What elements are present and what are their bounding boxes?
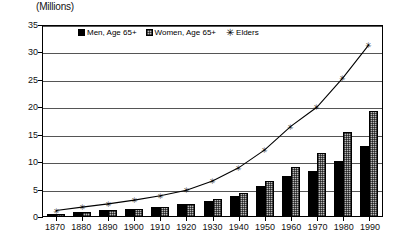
bar-group (304, 26, 330, 217)
x-axis-tick-mark (160, 217, 161, 221)
bar-group (173, 26, 199, 217)
bar-men (308, 171, 317, 217)
y-axis-tick-label: 30 (16, 47, 38, 57)
y-axis-tick-labels: 05101520253035 (12, 25, 38, 217)
bar-group (69, 26, 95, 217)
y-axis-tick-label: 25 (16, 75, 38, 85)
y-axis-tick-mark (38, 217, 43, 218)
legend-item: ✳Elders (225, 28, 259, 37)
y-axis-tick-label: 35 (16, 20, 38, 30)
x-axis-tick-mark (291, 217, 292, 221)
y-axis-tick-label: 20 (16, 102, 38, 112)
bar-men (204, 201, 213, 217)
x-axis-tick-mark (213, 217, 214, 221)
bar-men (282, 176, 291, 217)
bar-women (213, 199, 222, 217)
x-axis-tick-mark (134, 217, 135, 221)
bar-group (226, 26, 252, 217)
bar-group (95, 26, 121, 217)
x-axis-tick-label: 1990 (357, 222, 383, 232)
bar-men (334, 161, 343, 218)
bar-men (256, 186, 265, 217)
bar-group (121, 26, 147, 217)
x-axis-tick-mark (343, 217, 344, 221)
bar-groups (43, 26, 382, 217)
x-axis-tick-label: 1920 (173, 222, 199, 232)
bar-women (265, 181, 274, 217)
x-axis-tick-mark (265, 217, 266, 221)
bar-men (360, 146, 369, 217)
x-axis-tick-mark (82, 217, 83, 221)
y-axis-tick-label: 15 (16, 130, 38, 140)
x-axis-tick-mark (56, 217, 57, 221)
x-axis-tick-label: 1970 (304, 222, 330, 232)
bar-group (356, 26, 382, 217)
bar-women (291, 167, 300, 217)
legend-item-label: Elders (236, 28, 259, 37)
x-axis-tick-mark (369, 217, 370, 221)
bar-group (330, 26, 356, 217)
plot-inner: ✳✳✳✳✳✳✳✳✳✳✳✳✳ (43, 26, 382, 217)
legend-item-label: Men, Age 65+ (87, 28, 137, 37)
y-axis-tick-label: 0 (16, 212, 38, 222)
solid-black-square-icon (78, 29, 85, 36)
x-axis-tick-label: 1930 (199, 222, 225, 232)
y-axis-title: (Millions) (36, 1, 74, 12)
x-axis-tick-label: 1880 (68, 222, 94, 232)
x-axis-tick-label: 1940 (226, 222, 252, 232)
y-axis-tick-label: 5 (16, 185, 38, 195)
bar-group (278, 26, 304, 217)
bar-group (147, 26, 173, 217)
bar-women (317, 153, 326, 217)
x-axis-baseline (43, 216, 382, 217)
bar-group (43, 26, 69, 217)
legend-item-label: Women, Age 65+ (155, 28, 216, 37)
x-axis-tick-mark (317, 217, 318, 221)
legend-item: Women, Age 65+ (146, 28, 216, 37)
bar-women (239, 193, 248, 217)
x-axis-tick-label: 1900 (121, 222, 147, 232)
x-axis-tick-label: 1960 (278, 222, 304, 232)
x-axis-tick-mark (239, 217, 240, 221)
y-axis-tick-label: 10 (16, 157, 38, 167)
bar-women (343, 132, 352, 217)
plot-area: ✳✳✳✳✳✳✳✳✳✳✳✳✳ (42, 25, 383, 217)
x-axis-tick-mark (186, 217, 187, 221)
bar-men (230, 196, 239, 217)
x-axis-tick-label: 1870 (42, 222, 68, 232)
x-axis-tick-labels: 1870188018901900191019201930194019501960… (42, 222, 383, 232)
x-axis-tick-label: 1890 (94, 222, 120, 232)
x-axis-tick-label: 1910 (147, 222, 173, 232)
legend-item: Men, Age 65+ (78, 28, 137, 37)
x-axis-tick-label: 1950 (252, 222, 278, 232)
x-axis-tick-mark (108, 217, 109, 221)
star-marker-icon: ✳ (225, 28, 234, 37)
chart-container: (Millions) 05101520253035 ✳✳✳✳✳✳✳✳✳✳✳✳✳ … (0, 0, 393, 247)
x-axis-tick-label: 1980 (331, 222, 357, 232)
chart-legend: Men, Age 65+Women, Age 65+✳Elders (78, 28, 259, 37)
bar-women (369, 111, 378, 217)
hatched-gray-square-icon (146, 29, 153, 36)
bar-group (252, 26, 278, 217)
bar-group (199, 26, 225, 217)
